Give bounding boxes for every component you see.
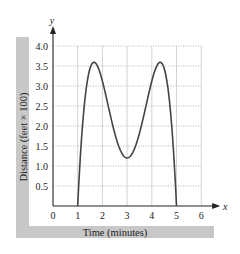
- svg-text:y: y: [49, 15, 55, 26]
- tick-labels: 0.51.01.52.02.53.03.54.00123456: [36, 41, 204, 222]
- plot-area: 0.51.01.52.02.53.03.54.00123456 yx: [0, 0, 240, 254]
- svg-text:x: x: [222, 201, 228, 212]
- svg-text:2.0: 2.0: [36, 121, 49, 132]
- svg-text:3.5: 3.5: [36, 61, 49, 72]
- svg-text:6: 6: [199, 210, 204, 221]
- svg-text:2: 2: [100, 210, 105, 221]
- svg-text:3: 3: [125, 210, 130, 221]
- svg-text:4: 4: [149, 210, 154, 221]
- svg-text:0: 0: [51, 210, 56, 221]
- svg-text:1.0: 1.0: [36, 161, 49, 172]
- svg-text:5: 5: [174, 210, 179, 221]
- svg-text:1: 1: [75, 210, 80, 221]
- svg-text:2.5: 2.5: [36, 101, 49, 112]
- svg-text:1.5: 1.5: [36, 141, 49, 152]
- svg-text:4.0: 4.0: [36, 41, 49, 52]
- grid-lines: [53, 46, 201, 206]
- svg-text:3.0: 3.0: [36, 81, 49, 92]
- svg-text:0.5: 0.5: [36, 181, 49, 192]
